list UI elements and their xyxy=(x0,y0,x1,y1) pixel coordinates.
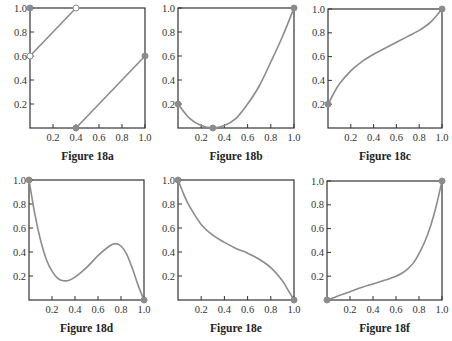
function-curve xyxy=(178,8,294,128)
plot-frame xyxy=(178,180,294,300)
figure-18e-plot: 0.20.40.60.81.00.20.40.60.81.0 xyxy=(148,174,306,316)
closed-point xyxy=(27,5,33,11)
function-curve xyxy=(328,9,442,104)
y-tick-label: 0.2 xyxy=(162,99,175,110)
closed-point xyxy=(141,297,147,303)
x-tick-label: 1.0 xyxy=(435,304,448,315)
figure-18a-plot: 0.20.40.60.81.00.20.40.60.81.0 xyxy=(0,2,157,144)
y-tick-label: 1.0 xyxy=(162,175,175,186)
function-curve xyxy=(29,180,144,300)
y-tick-label: 0.6 xyxy=(13,223,26,234)
figure-18b-caption: Figure 18b xyxy=(176,150,296,162)
y-tick-label: 0.4 xyxy=(162,75,176,86)
x-tick-label: 0.4 xyxy=(69,132,83,143)
x-tick-label: 1.0 xyxy=(435,132,448,143)
figure-18f-plot: 0.20.40.60.81.00.20.40.60.81.0 xyxy=(297,175,452,316)
y-tick-label: 0.6 xyxy=(312,51,325,62)
x-tick-label: 0.8 xyxy=(114,304,127,315)
y-tick-label: 0.2 xyxy=(312,99,325,110)
y-tick-label: 1.0 xyxy=(311,176,324,187)
x-tick-label: 0.2 xyxy=(46,132,59,143)
figure-18d-plot: 0.20.40.60.81.00.20.40.60.81.0 xyxy=(0,174,156,316)
x-tick-label: 0.8 xyxy=(413,132,426,143)
closed-point xyxy=(324,297,330,303)
function-curve xyxy=(327,181,442,300)
x-tick-label: 0.6 xyxy=(92,132,105,143)
y-tick-label: 0.8 xyxy=(162,27,175,38)
y-tick-label: 0.2 xyxy=(162,271,175,282)
x-tick-label: 0.2 xyxy=(344,132,357,143)
figure-18f-caption: Figure 18f xyxy=(325,322,445,334)
figure-18d-caption: Figure 18d xyxy=(27,322,147,334)
y-tick-label: 0.4 xyxy=(312,75,326,86)
figure-18e-caption: Figure 18e xyxy=(176,322,296,334)
function-curve xyxy=(76,56,145,128)
y-tick-label: 1.0 xyxy=(13,175,26,186)
y-tick-label: 1.0 xyxy=(162,3,175,14)
closed-point xyxy=(73,125,79,131)
closed-point xyxy=(175,101,181,107)
x-tick-label: 0.4 xyxy=(218,132,232,143)
y-tick-label: 0.8 xyxy=(162,199,175,210)
y-tick-label: 0.6 xyxy=(311,223,324,234)
y-tick-label: 1.0 xyxy=(312,4,325,15)
y-tick-label: 0.6 xyxy=(14,51,27,62)
x-tick-label: 0.6 xyxy=(241,132,254,143)
y-tick-label: 0.4 xyxy=(13,247,27,258)
y-tick-label: 0.2 xyxy=(14,99,27,110)
plot-frame xyxy=(178,8,294,128)
y-tick-label: 0.6 xyxy=(162,223,175,234)
closed-point xyxy=(291,5,297,11)
x-tick-label: 0.8 xyxy=(115,132,128,143)
closed-point xyxy=(210,125,216,131)
x-tick-label: 0.6 xyxy=(390,132,403,143)
x-tick-label: 0.6 xyxy=(389,304,402,315)
x-tick-label: 0.6 xyxy=(241,304,254,315)
y-tick-label: 0.8 xyxy=(14,27,27,38)
figure-18c-caption: Figure 18c xyxy=(325,150,445,162)
y-tick-label: 0.6 xyxy=(162,51,175,62)
plot-frame xyxy=(29,180,144,300)
x-tick-label: 0.4 xyxy=(367,132,381,143)
y-tick-label: 1.0 xyxy=(14,3,27,14)
x-tick-label: 0.8 xyxy=(412,304,425,315)
y-tick-label: 0.8 xyxy=(311,199,324,210)
x-tick-label: 0.2 xyxy=(45,304,58,315)
x-tick-label: 0.2 xyxy=(195,304,208,315)
closed-point xyxy=(175,177,181,183)
x-tick-label: 0.4 xyxy=(366,304,380,315)
function-curve xyxy=(30,8,76,56)
x-tick-label: 0.8 xyxy=(264,132,277,143)
function-curve xyxy=(178,180,294,300)
closed-point xyxy=(26,177,32,183)
y-tick-label: 0.4 xyxy=(311,247,325,258)
closed-point xyxy=(439,178,445,184)
plot-frame xyxy=(30,8,145,128)
y-tick-label: 0.2 xyxy=(13,271,26,282)
x-tick-label: 0.2 xyxy=(343,304,356,315)
y-tick-label: 0.2 xyxy=(311,271,324,282)
closed-point xyxy=(325,101,331,107)
figure-18a-caption: Figure 18a xyxy=(28,150,148,162)
closed-point xyxy=(439,6,445,12)
y-tick-label: 0.8 xyxy=(13,199,26,210)
x-tick-label: 0.6 xyxy=(91,304,104,315)
open-point xyxy=(27,53,33,59)
y-tick-label: 0.8 xyxy=(312,27,325,38)
open-point xyxy=(73,5,79,11)
y-tick-label: 0.4 xyxy=(14,75,28,86)
x-tick-label: 0.2 xyxy=(195,132,208,143)
y-tick-label: 0.4 xyxy=(162,247,176,258)
x-tick-label: 0.4 xyxy=(68,304,82,315)
figure-18b-plot: 0.20.40.60.81.00.20.40.60.81.0 xyxy=(148,2,306,144)
x-tick-label: 0.8 xyxy=(264,304,277,315)
figure-18c-plot: 0.20.40.60.81.00.20.40.60.81.0 xyxy=(298,3,452,144)
x-tick-label: 0.4 xyxy=(218,304,232,315)
